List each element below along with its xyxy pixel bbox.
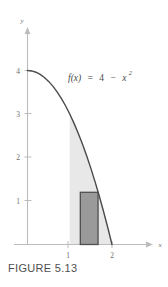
- formula-equals: =: [88, 73, 93, 83]
- y-tick-label-2: 2: [16, 153, 20, 162]
- graph-plot: 4 3 2 1 1 2 y x f(x) = 4 − x 2: [0, 0, 168, 287]
- inscribed-rectangle: [80, 192, 98, 244]
- formula-variable: x: [121, 73, 127, 83]
- formula-exponent: 2: [129, 68, 133, 75]
- x-axis-arrowhead: [146, 242, 153, 248]
- formula-lhs: f(x): [68, 73, 81, 84]
- y-axis-label: y: [19, 17, 24, 25]
- formula-constant: 4: [99, 73, 104, 83]
- figure-caption: FIGURE 5.13: [8, 262, 77, 274]
- x-tick-label-2: 2: [110, 251, 114, 260]
- y-axis-arrowhead: [25, 27, 31, 34]
- function-formula-annotation: f(x) = 4 − x 2: [68, 68, 133, 84]
- x-axis-label: x: [157, 241, 162, 249]
- x-tick-label-1: 1: [66, 251, 70, 260]
- formula-minus: −: [110, 73, 115, 83]
- y-tick-label-1: 1: [16, 197, 20, 206]
- figure-container: 4 3 2 1 1 2 y x f(x) = 4 − x 2 FIGURE 5.…: [0, 0, 168, 287]
- y-tick-label-4: 4: [16, 67, 20, 76]
- y-tick-label-3: 3: [16, 110, 20, 119]
